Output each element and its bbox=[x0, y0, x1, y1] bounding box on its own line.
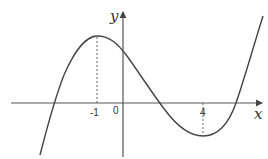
function-graph bbox=[0, 0, 268, 159]
y-axis-label: y bbox=[110, 9, 118, 24]
function-curve bbox=[40, 16, 263, 155]
x-axis-label: x bbox=[254, 107, 262, 122]
tick-label-minus-1: -1 bbox=[90, 108, 99, 118]
origin-label: 0 bbox=[113, 106, 119, 116]
tick-label-4: 4 bbox=[200, 108, 206, 118]
